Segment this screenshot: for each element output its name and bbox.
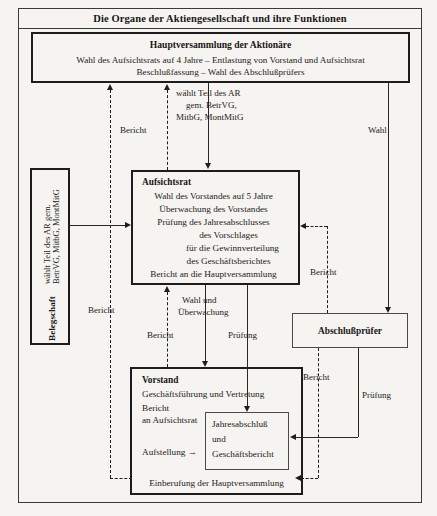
edge-bericht-ap-top-arrowhead (300, 223, 306, 229)
belegschaft-line-2: BetrVG, MitbG, MontMitG (52, 189, 61, 284)
edge-bericht-left-arrowhead (107, 84, 113, 90)
jahresabschluss-line-1: Jahresabschluß (212, 419, 268, 429)
node-belegschaft: Belegschaft wählt Teil des AR gem. BetrV… (30, 168, 70, 345)
edge-belegschaft-line (70, 225, 125, 226)
hauptversammlung-line-2: Beschlußfassung – Wahl des Abschlußprüfe… (33, 67, 408, 77)
node-aufsichtsrat: Aufsichtsrat Wahl des Vorstandes auf 5 J… (131, 170, 300, 285)
aufsichtsrat-line-6: des Geschäftsberichtes (163, 256, 294, 266)
edge-label-wahl-ueberwachung-2: Überwachung (178, 307, 228, 317)
abschlusspruefer-title: Abschlußprüfer (318, 326, 382, 336)
jahresabschluss-line-2: und (212, 434, 226, 444)
edge-pruefung-ap-elbow (296, 437, 358, 438)
edge-label-waehlt-teil-ar-1: wählt Teil des AR (176, 88, 296, 98)
edge-label-pruefung-ap: Prüfung (362, 390, 391, 400)
edge-wahl-arrowhead (385, 307, 391, 313)
edge-bericht-left-foot (110, 478, 132, 479)
edge-pruefung-ar-line (247, 285, 248, 406)
vorstand-line-3: an Aufsichtsrat (142, 415, 197, 425)
edge-label-waehlt-teil-ar-3: MitbG, MontMitG (176, 112, 296, 122)
edge-label-bericht-ar: Bericht (147, 330, 174, 340)
edge-bericht-ap-bottom-foot (301, 478, 318, 479)
vorstand-bottom-line: Einberufung der Hauptversammlung (132, 478, 301, 488)
edge-belegschaft-arrowhead (125, 222, 131, 228)
edge-pruefung-ap-arrowhead (290, 434, 296, 440)
aufsichtsrat-line-1: Wahl des Vorstandes auf 5 Jahre (133, 191, 294, 201)
vorstand-line-4: Aufstellung → (142, 447, 197, 457)
edge-label-pruefung-ar: Prüfung (228, 330, 257, 340)
aufsichtsrat-line-2: Überwachung des Vorstandes (133, 204, 294, 214)
aufsichtsrat-title: Aufsichtsrat (142, 177, 191, 187)
belegschaft-rotated-text: Belegschaft wählt Teil des AR gem. BetrV… (32, 170, 72, 347)
node-hauptversammlung: Hauptversammlung der Aktionäre Wahl des … (31, 32, 410, 83)
aufsichtsrat-line-7: Bericht an die Hauptversammlung (133, 269, 294, 279)
belegschaft-title: Belegschaft (47, 296, 57, 341)
jahresabschluss-line-3: Geschäftsbericht (212, 449, 274, 459)
hauptversammlung-title: Hauptversammlung der Aktionäre (33, 39, 408, 50)
page-title: Die Organe der Aktiengesellschaft und ih… (93, 13, 346, 24)
edge-wahl-line (388, 83, 389, 307)
diagram-title-box: Die Organe der Aktiengesellschaft und ih… (18, 8, 422, 29)
edge-pruefung-ar-arrowhead (244, 406, 250, 412)
vorstand-title: Vorstand (142, 375, 178, 385)
edge-label-bericht-left: Bericht (88, 305, 115, 315)
edge-bericht-ap-bottom-line (318, 348, 319, 478)
edge-waehlt-teil-ar-arrowhead (205, 163, 211, 169)
edge-label-bericht-ap-top: Bericht (310, 267, 337, 277)
edge-pruefung-ap-line (358, 348, 359, 437)
vorstand-line-2: Bericht (142, 403, 169, 413)
belegschaft-detail: wählt Teil des AR gem. BetrVG, MitbG, Mo… (43, 189, 61, 284)
edge-wahl-ueberwachung-arrowhead (202, 361, 208, 367)
diagram-canvas: Die Organe der Aktiengesellschaft und ih… (0, 0, 437, 516)
aufsichtsrat-line-3: Prüfung des Jahresabschlusses (133, 217, 294, 227)
edge-label-wahl: Wahl (368, 125, 387, 135)
edge-label-wahl-ueberwachung-1: Wahl und (182, 295, 217, 305)
edge-bericht-ap-bottom-arrowhead (295, 475, 301, 481)
hauptversammlung-line-1: Wahl des Aufsichtsrats auf 4 Jahre – Ent… (33, 55, 408, 65)
edge-bericht-left-line (110, 90, 111, 478)
node-abschlusspruefer: Abschlußprüfer (292, 313, 408, 348)
edge-label-bericht-ap-bottom: Bericht (303, 372, 330, 382)
aufsichtsrat-line-4: des Vorschlages (163, 230, 294, 240)
edge-bericht-ap-top-head (306, 226, 327, 227)
edge-bericht-ar-arrowhead (164, 286, 170, 292)
edge-label-waehlt-teil-ar-2: gem. BetrVG, (186, 100, 306, 110)
edge-bericht-hv-line (167, 90, 168, 170)
vorstand-line-1: Geschäftsführung und Vertretung (142, 389, 264, 399)
edge-bericht-hv-arrowhead (164, 84, 170, 90)
edge-label-bericht-hv: Bericht (120, 125, 147, 135)
aufsichtsrat-line-5: für die Gewinnverteilung (171, 243, 294, 253)
node-jahresabschluss: Jahresabschluß und Geschäftsbericht (205, 412, 289, 470)
